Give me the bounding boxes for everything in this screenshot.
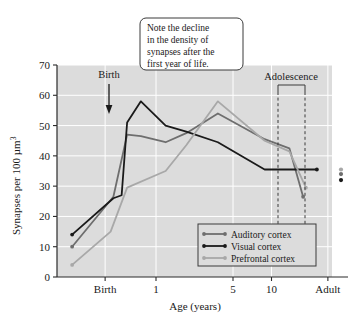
callout-line-2: synapses after the xyxy=(147,47,215,57)
legend-swatch-dot xyxy=(223,244,227,248)
adult-value-dots xyxy=(339,167,343,182)
y-tick-label: 40 xyxy=(39,150,51,162)
series-endpoint-dot xyxy=(315,168,319,172)
series-endpoint-dot xyxy=(70,245,74,249)
y-tick-label: 60 xyxy=(39,89,51,101)
x-tick-label: 10 xyxy=(266,283,278,295)
legend-label-prefrontal-cortex: Prefrontal cortex xyxy=(231,254,295,264)
callout-box: Note the decline in the density of synap… xyxy=(140,18,243,70)
y-tick-label: 10 xyxy=(39,241,51,253)
synapse-density-line-chart: 010203040506070 Birth1510Adult Synapses … xyxy=(0,0,363,325)
legend-label-auditory-cortex: Auditory cortex xyxy=(231,230,292,240)
series-endpoint-dot xyxy=(301,195,305,199)
y-tick-label: 70 xyxy=(39,59,51,71)
legend-swatch-dot xyxy=(223,256,227,260)
y-tick-label: 50 xyxy=(39,120,51,132)
figure-container: 010203040506070 Birth1510Adult Synapses … xyxy=(0,0,363,325)
y-tick-label: 30 xyxy=(39,180,51,192)
x-axis-ticks: Birth1510Adult xyxy=(94,277,341,295)
adult-dot xyxy=(339,178,343,182)
legend-swatch-dot xyxy=(202,244,206,248)
legend-swatch-dot xyxy=(223,232,227,236)
series-endpoint-dot xyxy=(70,233,74,237)
svg-text:Synapses per 100 µm3: Synapses per 100 µm3 xyxy=(9,136,22,235)
x-tick-label: 5 xyxy=(230,283,236,295)
y-tick-label: 20 xyxy=(39,210,51,222)
series-endpoint-dot xyxy=(70,263,74,267)
adolescence-label: Adolescence xyxy=(264,71,318,82)
adult-dot xyxy=(339,172,343,176)
x-tick-label: Adult xyxy=(315,283,340,295)
legend-swatch-dot xyxy=(202,256,206,260)
adult-dot xyxy=(339,167,343,171)
callout-line-1: in the density of xyxy=(147,35,209,45)
x-tick-label: Birth xyxy=(94,283,117,295)
x-axis-title: Age (years) xyxy=(169,300,221,313)
legend: Auditory cortexVisual cortexPrefrontal c… xyxy=(198,224,316,266)
y-tick-label: 0 xyxy=(45,271,51,283)
callout-line-3: first year of life. xyxy=(147,59,209,69)
legend-swatch-dot xyxy=(202,232,206,236)
y-axis-ticks: 010203040506070 xyxy=(39,59,57,283)
callout-line-0: Note the decline xyxy=(147,23,209,33)
legend-label-visual-cortex: Visual cortex xyxy=(231,242,282,252)
y-axis-title: Synapses per 100 µm3 xyxy=(9,136,22,235)
x-tick-label: 1 xyxy=(153,283,159,295)
birth-label: Birth xyxy=(98,69,120,80)
